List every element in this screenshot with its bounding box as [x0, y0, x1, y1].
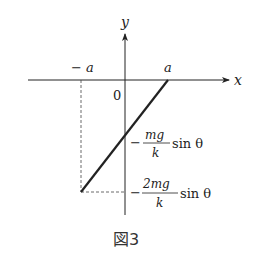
annotation-2-suffix: sin θ	[180, 186, 211, 201]
y-axis-label: y	[120, 14, 130, 30]
figure-caption: 図3	[113, 230, 139, 249]
annotation-1-denominator: k	[152, 146, 159, 160]
x-axis-label: x	[234, 72, 242, 88]
y-annotation-mg-over-k: − mg k sin θ	[130, 128, 203, 160]
y-annotation-2mg-over-k: − 2mg k sin θ	[130, 177, 211, 210]
annotation-2-sign: −	[130, 185, 141, 200]
annotation-2-numerator: 2mg	[142, 177, 170, 191]
tick-label-neg-a: − a	[71, 60, 94, 75]
origin-label: 0	[113, 88, 121, 103]
annotation-1-suffix: sin θ	[172, 136, 203, 151]
annotation-2-denominator: k	[156, 196, 163, 210]
annotation-1-sign: −	[130, 135, 141, 150]
annotation-1-numerator: mg	[145, 128, 164, 142]
figure-diagram: x y 0 − a a − mg k sin θ − 2mg k sin θ 図…	[0, 0, 258, 258]
tick-label-pos-a: a	[164, 60, 172, 75]
